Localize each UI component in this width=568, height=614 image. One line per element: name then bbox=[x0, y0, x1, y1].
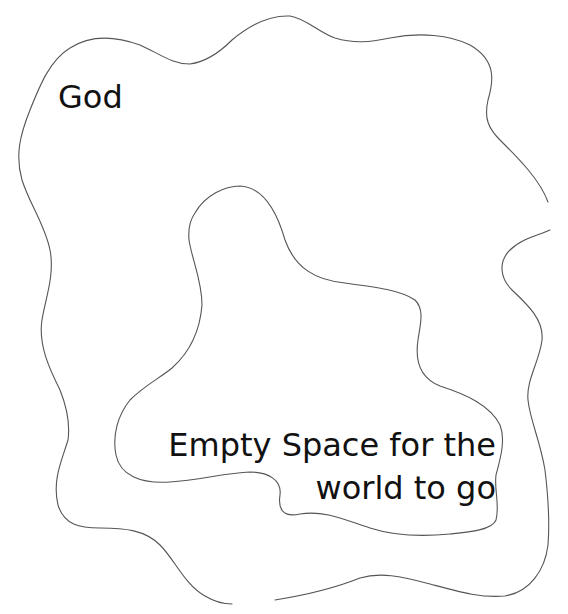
empty-space-label: Empty Space for the world to go bbox=[168, 424, 496, 510]
outer-region-outline-bottom bbox=[275, 230, 550, 600]
diagram-canvas: God Empty Space for the world to go bbox=[0, 0, 568, 614]
empty-space-label-line1: Empty Space for the bbox=[168, 424, 496, 467]
empty-space-label-line2: world to go bbox=[168, 467, 496, 510]
god-label: God bbox=[58, 78, 123, 116]
